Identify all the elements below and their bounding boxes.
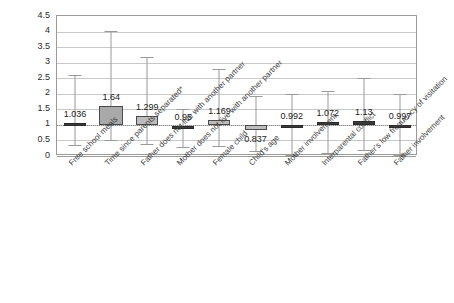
whisker-cap-upper: [285, 94, 298, 95]
whisker-cap-upper: [357, 78, 370, 79]
whisker-cap-lower: [141, 144, 154, 145]
box-rect: [281, 125, 303, 128]
box-rect: [245, 125, 267, 130]
whisker-cap-upper: [213, 69, 226, 70]
x-axis: Free school mealsTime since parents sepa…: [0, 155, 454, 303]
box-plot-item: 0.992: [274, 16, 310, 156]
whisker-cap-upper: [177, 109, 190, 110]
whisker-cap-upper: [393, 94, 406, 95]
whisker-cap-lower: [69, 145, 82, 146]
box-value-label: 0.992: [280, 112, 303, 121]
whisker-cap-upper: [105, 31, 118, 32]
y-axis-tick-label: 2: [0, 88, 50, 97]
y-axis-tick-label: 3.5: [0, 42, 50, 51]
whisker-cap-upper: [69, 75, 82, 76]
y-axis-tick-label: 2.5: [0, 73, 50, 82]
whisker-cap-lower: [105, 140, 118, 141]
box-value-label: 1.036: [64, 110, 87, 119]
y-axis-tick-label: 0.5: [0, 135, 50, 144]
y-axis-tick-label: 1: [0, 119, 50, 128]
box-rect: [64, 123, 86, 126]
box-plot-item: 1.036: [57, 16, 93, 156]
y-axis-tick-label: 4: [0, 26, 50, 35]
y-axis-tick-label: 1.5: [0, 104, 50, 113]
y-axis-tick-label: 3: [0, 57, 50, 66]
box-value-label: 1.64: [102, 93, 120, 102]
box-plot-figure: 4.543.532.521.510.50 1.0361.641.2990.951…: [0, 0, 454, 303]
whisker: [147, 57, 148, 143]
whisker-cap-upper: [321, 91, 334, 92]
y-axis-tick-label: 4.5: [0, 11, 50, 20]
whisker-cap-upper: [141, 57, 154, 58]
